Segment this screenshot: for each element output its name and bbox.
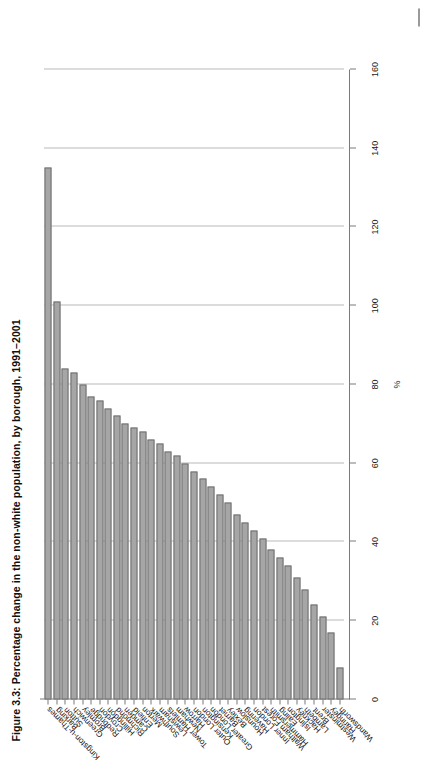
x-axis-tick [350,698,356,699]
category-axis-tick [168,699,169,704]
bar-row: Merton [138,69,147,699]
bar-row: Outer London [190,69,199,699]
bar-chart-plot-area: 020406080100120140160Kingston-u-ThamesBa… [44,69,344,699]
category-axis-tick [82,699,83,704]
category-axis-tick [219,699,220,704]
category-axis-tick [65,699,66,704]
x-axis-tick-label: 120 [370,219,380,234]
bar-row: Havering [241,69,250,699]
bar-row: Richmond [113,69,122,699]
x-axis-tick-label: 140 [370,140,380,155]
bar [328,632,335,699]
category-axis-tick [331,699,332,704]
bar-row: Hillingdon [104,69,113,699]
x-axis-tick-label: 80 [370,379,380,389]
bar [88,396,95,699]
bar [268,549,275,699]
bar-row: Waltham Forest [258,69,267,699]
category-axis-tick [91,699,92,704]
category-axis-tick [305,699,306,704]
bar-row: Harrow [181,69,190,699]
bar-row: Lambeth [301,69,310,699]
x-axis-tick [350,68,356,69]
bar [96,400,103,699]
x-axis-tick-label: 160 [370,61,380,76]
bar-row: Inner London [250,69,259,699]
category-axis-tick [108,699,109,704]
category-axis-tick [202,699,203,704]
category-axis-tick [279,699,280,704]
bar-row: Kingston-u-Thames [44,69,53,699]
bar [208,486,215,699]
x-axis-tick-label: 0 [370,696,380,701]
bar-row: Westminster [318,69,327,699]
bar [225,502,232,699]
category-axis-tick [322,699,323,704]
category-axis-tick [151,699,152,704]
bar [130,427,137,699]
bar [53,301,60,699]
bar [319,616,326,699]
bar [285,565,292,699]
x-axis-title: % [392,380,402,388]
category-axis-tick [133,699,134,704]
bar-row: Tower Hamlets [164,69,173,699]
category-axis-tick [313,699,314,704]
bar [259,538,266,699]
x-axis-tick-label: 40 [370,536,380,546]
bar-row: Croydon [95,69,104,699]
x-axis-tick-label: 60 [370,458,380,468]
bar [45,167,52,699]
bar [79,384,86,699]
bar [190,471,197,699]
bar-row: Wandsworth [335,69,344,699]
bar [302,589,309,699]
bar [310,605,317,700]
bar-row: Hammersmith [267,69,276,699]
bar-row: Brent [310,69,319,699]
category-axis-tick [159,699,160,704]
bar [276,557,283,699]
bar-row: Islington [284,69,293,699]
x-axis-tick [350,541,356,542]
page-rule [418,8,420,26]
bar [233,514,240,699]
category-axis-tick [296,699,297,704]
category-axis-tick [116,699,117,704]
x-axis-tick [350,304,356,305]
bar-row: Camden [121,69,130,699]
bar [105,408,112,699]
bar [242,522,249,699]
bar-row: Newham [173,69,182,699]
x-axis-tick [350,462,356,463]
bar-row: Ealing [275,69,284,699]
bar [139,431,146,699]
bar [336,668,343,700]
category-axis-tick [48,699,49,704]
bar [70,372,77,699]
category-axis-tick [253,699,254,704]
bar-row: Barking [53,69,62,699]
bar-row: Southwark [147,69,156,699]
category-axis-tick [193,699,194,704]
bar [293,577,300,699]
category-axis-tick [176,699,177,704]
category-axis-tick [73,699,74,704]
bar-row: Barnet [215,69,224,699]
bar-row: Greenwich [70,69,79,699]
category-axis-tick [142,699,143,704]
category-axis-tick [288,699,289,704]
category-axis-tick [271,699,272,704]
category-axis-tick [56,699,57,704]
category-axis-tick [236,699,237,704]
bar-row: Lewisham [155,69,164,699]
bar-row: Sutton [61,69,70,699]
category-axis-tick [125,699,126,704]
bar-row: Greater London [207,69,216,699]
category-axis-tick [245,699,246,704]
x-axis-tick [350,383,356,384]
x-axis-tick [350,147,356,148]
bar-row: Kensington [198,69,207,699]
figure-title: Figure 3.3: Percentage change in the non… [10,319,22,741]
